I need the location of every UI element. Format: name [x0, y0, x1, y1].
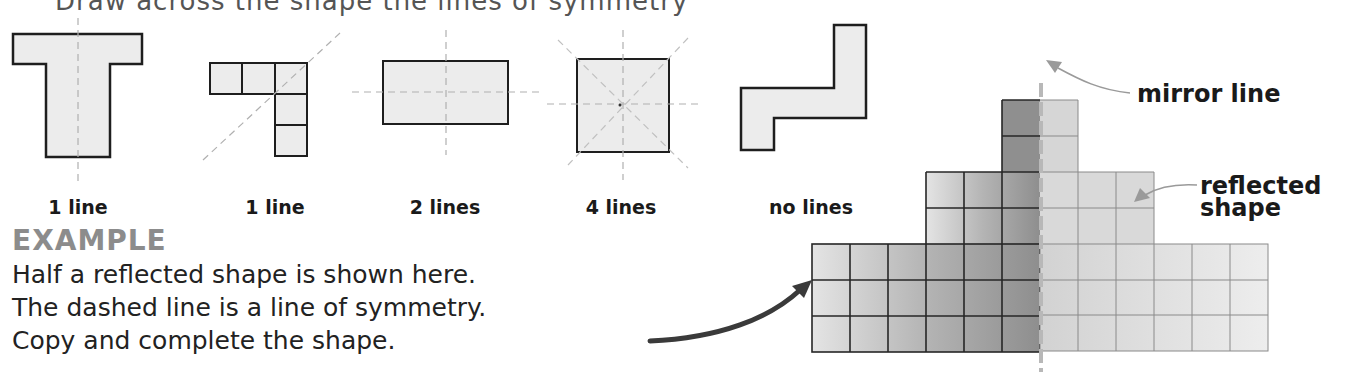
rectangle-shape — [352, 30, 540, 155]
t-shape — [13, 18, 142, 182]
example-arrow — [650, 280, 812, 341]
mirror-line-pointer — [1046, 60, 1130, 93]
label-t-shape: 1 line — [28, 196, 128, 218]
reflection-grid — [812, 83, 1268, 372]
example-heading: EXAMPLE — [12, 224, 167, 257]
original-half — [812, 100, 1040, 352]
instruction-line-3: Copy and complete the shape. — [12, 326, 395, 355]
symmetry-line — [203, 33, 340, 160]
label-square: 4 lines — [571, 196, 671, 218]
instruction-line-1: Half a reflected shape is shown here. — [12, 260, 476, 289]
mirror-line-label: mirror line — [1137, 82, 1280, 106]
label-l-shape: 1 line — [225, 196, 325, 218]
reflected-shape-label-2: shape — [1200, 196, 1281, 220]
s-shape — [741, 25, 866, 150]
l-shape — [203, 33, 340, 160]
square-shape — [547, 30, 703, 180]
label-rectangle: 2 lines — [395, 196, 495, 218]
instruction-line-2: The dashed line is a line of symmetry. — [12, 293, 486, 322]
reflected-half — [1040, 100, 1268, 351]
label-s-shape: no lines — [756, 196, 866, 218]
